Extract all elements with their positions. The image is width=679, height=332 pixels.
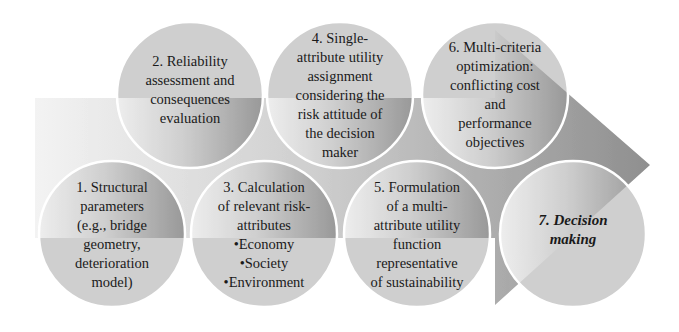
- process-diagram: 2. Reliability assessment and consequenc…: [0, 0, 679, 332]
- diagram-graphics: [0, 0, 679, 332]
